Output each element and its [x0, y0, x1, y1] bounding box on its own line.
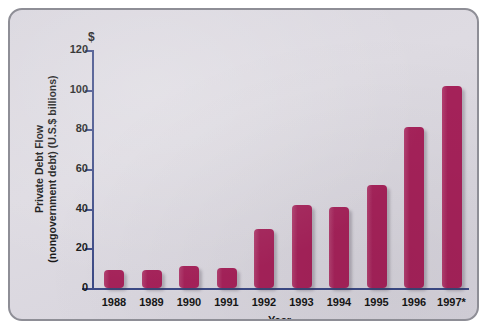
x-tick-label: 1996	[395, 296, 433, 308]
x-tick-label: 1994	[320, 296, 358, 308]
y-tick-label: 60	[76, 161, 88, 175]
y-tick-label: 100	[70, 82, 88, 96]
y-tick-label: 80	[76, 121, 88, 135]
x-tick-label: 1992	[245, 296, 283, 308]
y-tick-label: 120	[70, 42, 88, 56]
bar	[254, 229, 274, 289]
x-axis-line	[82, 288, 469, 290]
y-axis-title: Private Debt Flow (nongovernment debt) (…	[33, 49, 59, 289]
x-axis-title: Year	[92, 314, 467, 321]
x-tick-label: 1991	[208, 296, 246, 308]
x-tick-label: 1988	[95, 296, 133, 308]
y-tick-label: 40	[76, 201, 88, 215]
bar	[367, 185, 387, 288]
bar	[142, 270, 162, 288]
y-axis-title-line-1: Private Debt Flow	[33, 49, 46, 289]
x-tick-label: 1997*	[433, 296, 471, 308]
x-tick-label: 1990	[170, 296, 208, 308]
chart-panel: $ 020406080100120 1988198919901991199219…	[8, 8, 479, 321]
bar	[104, 270, 124, 288]
y-axis-title-line-2: (nongovernment debt) (U.S.$ billions)	[46, 49, 59, 289]
y-tick-label: 0	[82, 280, 88, 294]
currency-symbol: $	[88, 30, 95, 44]
chart-figure: $ 020406080100120 1988198919901991199219…	[0, 0, 487, 329]
bar	[404, 127, 424, 288]
x-tick-label: 1995	[358, 296, 396, 308]
x-tick-label: 1993	[283, 296, 321, 308]
bar	[442, 86, 462, 288]
x-tick-label: 1989	[133, 296, 171, 308]
y-tick-label: 20	[76, 240, 88, 254]
bar	[292, 205, 312, 288]
bar	[329, 207, 349, 288]
bar	[217, 268, 237, 288]
bar	[179, 266, 199, 288]
plot-area: 020406080100120 198819891990199119921993…	[92, 50, 467, 288]
